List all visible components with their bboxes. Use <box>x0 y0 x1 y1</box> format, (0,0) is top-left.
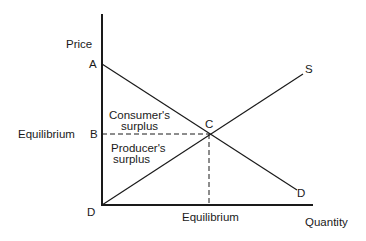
supply-curve <box>102 74 303 205</box>
producer-surplus-label-2: surplus <box>113 153 150 165</box>
supply-curve-label: S <box>305 63 313 75</box>
point-a-label: A <box>89 58 97 70</box>
diagram-canvas: Price Quantity A B C D D S Equilibrium E… <box>0 0 366 241</box>
point-c-label: C <box>205 118 213 130</box>
supply-demand-diagram: Price Quantity A B C D D S Equilibrium E… <box>0 0 366 241</box>
price-equilibrium-label: Equilibrium <box>18 128 75 140</box>
point-b-label: B <box>90 128 98 140</box>
consumer-surplus-label-2: surplus <box>121 120 158 132</box>
price-axis-label: Price <box>66 38 92 50</box>
quantity-equilibrium-label: Equilibrium <box>182 211 239 223</box>
demand-curve-label: D <box>297 187 305 199</box>
quantity-axis-label: Quantity <box>305 216 348 228</box>
origin-d-label: D <box>87 206 95 218</box>
